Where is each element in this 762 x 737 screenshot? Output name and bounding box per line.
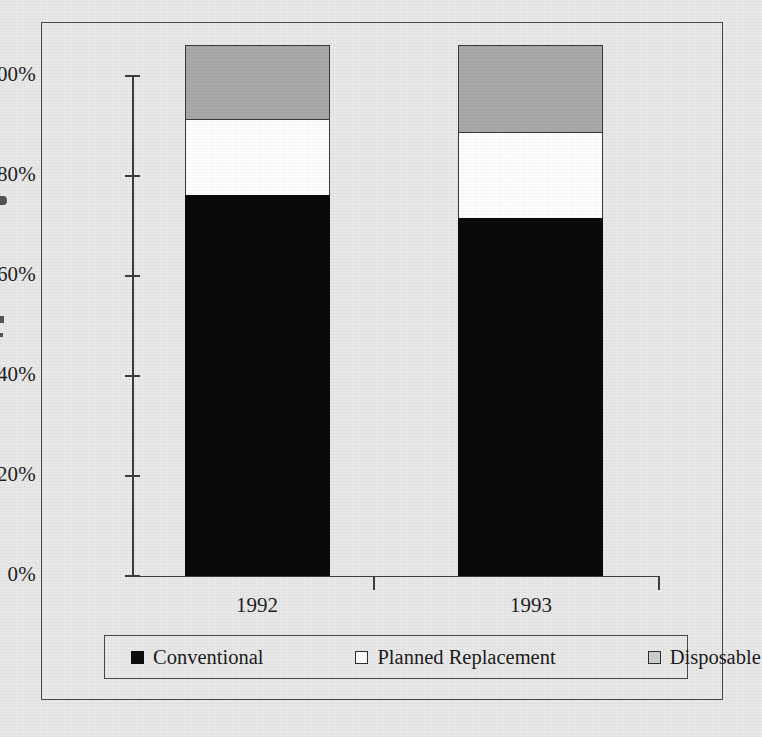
chart-plot-area: 100% 80% 60% 40% 20% 0% 1992 1993 Co bbox=[42, 23, 722, 699]
chart-legend: Conventional Planned Replacement Disposa… bbox=[104, 635, 688, 679]
x-axis-tick bbox=[658, 576, 660, 590]
legend-item-disposable[interactable]: Disposable bbox=[648, 646, 761, 668]
bar-segment-conventional-1993[interactable] bbox=[458, 218, 603, 576]
legend-item-planned-replacement[interactable]: Planned Replacement bbox=[355, 646, 555, 668]
y-axis-label-40: 40% bbox=[0, 364, 36, 385]
x-axis-tick bbox=[373, 576, 375, 590]
y-axis-tick bbox=[125, 175, 140, 177]
y-axis-tick bbox=[125, 275, 140, 277]
page-edge-fragment bbox=[0, 316, 4, 323]
y-axis-line bbox=[132, 75, 134, 576]
y-axis-label-20: 20% bbox=[0, 464, 36, 485]
page-edge-fragment bbox=[0, 196, 7, 205]
bar-segment-planned-replacement-1992[interactable] bbox=[185, 120, 330, 195]
y-axis-label-60: 60% bbox=[0, 264, 36, 285]
legend-label-planned-replacement: Planned Replacement bbox=[377, 646, 555, 668]
legend-label-disposable: Disposable bbox=[670, 646, 761, 668]
x-axis-label-1992: 1992 bbox=[177, 593, 337, 617]
y-axis-label-100: 100% bbox=[0, 64, 36, 85]
legend-swatch-filled-square-icon bbox=[131, 651, 144, 664]
y-axis-tick bbox=[125, 475, 140, 477]
y-axis-tick bbox=[125, 375, 140, 377]
bar-segment-disposable-1992[interactable] bbox=[185, 45, 330, 120]
legend-swatch-gray-square-icon bbox=[648, 651, 661, 664]
legend-item-conventional[interactable]: Conventional bbox=[131, 646, 263, 668]
bar-segment-planned-replacement-1993[interactable] bbox=[458, 133, 603, 218]
bar-segment-disposable-1993[interactable] bbox=[458, 45, 603, 133]
legend-swatch-open-square-icon bbox=[355, 651, 368, 664]
y-axis-label-0: 0% bbox=[0, 564, 36, 585]
y-axis-label-80: 80% bbox=[0, 164, 36, 185]
page-edge-fragment bbox=[0, 333, 3, 337]
bar-segment-conventional-1992[interactable] bbox=[185, 195, 330, 576]
y-axis-tick bbox=[125, 75, 140, 77]
chart-figure-frame: 100% 80% 60% 40% 20% 0% 1992 1993 Co bbox=[41, 22, 723, 700]
legend-label-conventional: Conventional bbox=[153, 646, 263, 668]
x-axis-label-1993: 1993 bbox=[451, 593, 611, 617]
